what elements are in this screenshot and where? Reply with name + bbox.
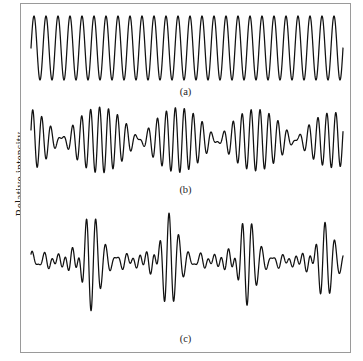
waveform-panel-b bbox=[21, 100, 350, 180]
waveform-trace-c bbox=[21, 200, 350, 322]
waveform-panel-c bbox=[21, 200, 350, 322]
waveform-panel-a bbox=[21, 8, 350, 88]
y-axis-label-container: Relative intensity bbox=[0, 0, 20, 361]
figure-root: Relative intensity (a) (b) (c) bbox=[0, 0, 363, 361]
waveform-trace-b bbox=[21, 100, 350, 180]
panel-caption-c: (c) bbox=[21, 333, 350, 344]
waveform-trace-a bbox=[21, 8, 350, 88]
panel-caption-a: (a) bbox=[21, 86, 350, 97]
panel-caption-b: (b) bbox=[21, 184, 350, 195]
plot-frame: (a) (b) (c) bbox=[20, 3, 351, 353]
